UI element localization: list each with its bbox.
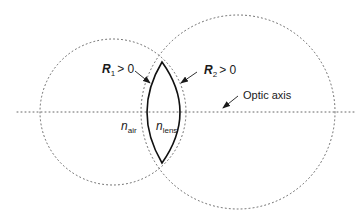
r2-arrow-icon [181,72,197,83]
n-lens-label: nlens [156,119,177,135]
optic-axis-arrow-icon [223,96,238,108]
r1-label: R1> 0 [102,62,134,78]
optic-axis-label: Optic axis [243,89,292,101]
biconvex-lens [147,62,180,163]
r2-label: R2> 0 [204,63,236,79]
lens-diagram: R1> 0 R2> 0 Optic axis nair nlens [0,0,361,218]
n-air-label: nair [121,119,137,135]
